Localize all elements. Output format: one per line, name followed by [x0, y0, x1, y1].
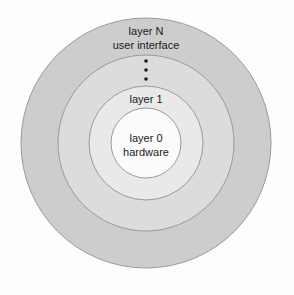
label-layer-0-line1: layer 0	[129, 132, 162, 144]
label-layer-0-line2: hardware	[123, 146, 169, 158]
diagram-canvas: layer N user interface layer 1 layer 0 h…	[0, 0, 294, 295]
label-layer-n-line2: user interface	[113, 39, 180, 51]
label-layer-n-line1: layer N	[129, 25, 164, 37]
ellipsis-dot-icon	[144, 68, 148, 72]
layered-system-diagram: layer N user interface layer 1 layer 0 h…	[0, 0, 294, 295]
ellipsis-dot-icon	[144, 77, 148, 81]
ellipsis-dot-icon	[144, 59, 148, 63]
label-layer-1: layer 1	[129, 93, 162, 105]
